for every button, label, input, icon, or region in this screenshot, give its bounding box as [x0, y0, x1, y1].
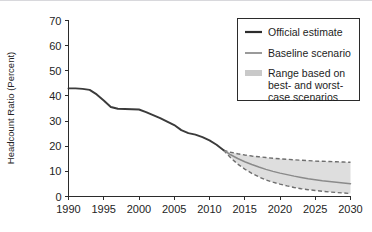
- y-tick-label: 60: [49, 40, 61, 52]
- x-tick-label: 2020: [268, 203, 292, 215]
- official-estimate-line: [69, 88, 224, 150]
- x-tick-label: 1995: [92, 203, 116, 215]
- y-tick-label: 50: [49, 65, 61, 77]
- y-axis-label: Headcount Ratio (Percent): [5, 52, 16, 164]
- x-tick-label: 2015: [233, 203, 257, 215]
- x-tick-label: 2010: [197, 203, 221, 215]
- x-tick-label: 2025: [303, 203, 327, 215]
- legend-label-baseline-scenario: Baseline scenario: [268, 47, 351, 59]
- y-tick-label: 20: [49, 140, 61, 152]
- y-axis-ticks: [65, 21, 69, 197]
- legend-label-range-line2: best- and worst-: [268, 79, 344, 91]
- legend-label-range-line3: case scenarios: [268, 91, 338, 103]
- range-band-fill: [224, 150, 351, 193]
- x-tick-label: 1990: [56, 203, 80, 215]
- x-tick-label: 2005: [162, 203, 186, 215]
- chart-figure: 010203040506070 199019952000200520102015…: [0, 0, 372, 232]
- y-tick-label: 30: [49, 115, 61, 127]
- y-tick-label: 40: [49, 90, 61, 102]
- legend: Official estimate Baseline scenario Rang…: [238, 19, 360, 104]
- y-tick-label: 0: [55, 191, 61, 203]
- legend-label-official-estimate: Official estimate: [268, 26, 343, 38]
- y-axis-tick-labels: 010203040506070: [49, 15, 61, 203]
- y-tick-label: 10: [49, 165, 61, 177]
- x-tick-label: 2030: [338, 203, 362, 215]
- headcount-ratio-chart: 010203040506070 199019952000200520102015…: [0, 0, 372, 232]
- y-tick-label: 70: [49, 15, 61, 27]
- x-axis-ticks: [69, 197, 351, 201]
- legend-label-range-line1: Range based on: [268, 67, 345, 79]
- x-axis-tick-labels: 199019952000200520102015202020252030: [56, 203, 362, 215]
- x-tick-label: 2000: [127, 203, 151, 215]
- legend-swatch-patch-icon: [245, 70, 262, 76]
